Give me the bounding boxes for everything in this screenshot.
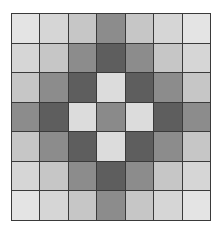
- grid-cell: [40, 132, 67, 161]
- grid-cell: [97, 44, 124, 73]
- grid-cell: [69, 14, 96, 43]
- grid-cell: [126, 73, 153, 102]
- grid-cell: [183, 191, 210, 220]
- grid-cell: [154, 103, 181, 132]
- grid-cell: [40, 14, 67, 43]
- grid-cell: [69, 191, 96, 220]
- grid-cell: [69, 132, 96, 161]
- grid-cell: [97, 103, 124, 132]
- grid-cell: [40, 162, 67, 191]
- grid-cell: [183, 162, 210, 191]
- grid-cell: [12, 14, 39, 43]
- grid-cell: [69, 44, 96, 73]
- grid-cell: [97, 73, 124, 102]
- grid-cell: [154, 191, 181, 220]
- grid-cell: [97, 132, 124, 161]
- grid-cell: [12, 103, 39, 132]
- grid-cell: [154, 162, 181, 191]
- grid-cell: [183, 132, 210, 161]
- grid-cell: [12, 132, 39, 161]
- grid-cell: [40, 44, 67, 73]
- grid-cell: [69, 103, 96, 132]
- grid-cell: [183, 44, 210, 73]
- grid-cell: [12, 162, 39, 191]
- grid-cell: [126, 162, 153, 191]
- grid-cell: [69, 73, 96, 102]
- grid-cell: [126, 14, 153, 43]
- grid-cell: [40, 191, 67, 220]
- grid-cell: [154, 14, 181, 43]
- grid-cell: [126, 132, 153, 161]
- grid-cell: [126, 44, 153, 73]
- grid-cell: [97, 162, 124, 191]
- grid-cell: [97, 14, 124, 43]
- grid-cell: [154, 73, 181, 102]
- grid-cell: [97, 191, 124, 220]
- grid-cell: [183, 14, 210, 43]
- grid-cell: [12, 44, 39, 73]
- grid-cell: [183, 103, 210, 132]
- grid-cell: [154, 44, 181, 73]
- grid-cell: [154, 132, 181, 161]
- grid-cell: [40, 73, 67, 102]
- grid-cell: [183, 73, 210, 102]
- grid-cell: [12, 191, 39, 220]
- grid-cell: [126, 191, 153, 220]
- shaded-grid: [11, 13, 211, 221]
- grid-cell: [69, 162, 96, 191]
- grid-cell: [12, 73, 39, 102]
- grid-cell: [40, 103, 67, 132]
- grid-cell: [126, 103, 153, 132]
